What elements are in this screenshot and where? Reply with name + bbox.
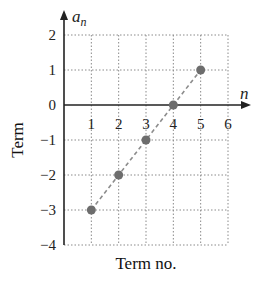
x-tick-label: 4 — [170, 116, 178, 132]
x-tick-label: 3 — [142, 116, 150, 132]
y-axis-arrow — [60, 10, 68, 20]
x-tick-label: 2 — [115, 116, 123, 132]
x-tick-label: 5 — [197, 116, 205, 132]
data-point — [142, 136, 151, 145]
y-tick-label: −4 — [40, 237, 56, 253]
y-tick-label: −1 — [40, 132, 56, 148]
data-point — [196, 66, 205, 75]
x-tick-label: 6 — [224, 116, 232, 132]
x-axis-label: Term no. — [115, 254, 176, 273]
x-axis-name: n — [240, 84, 249, 103]
y-tick-label: −2 — [40, 167, 56, 183]
y-tick-label: 2 — [49, 27, 57, 43]
y-axis-label: Term — [8, 122, 27, 158]
y-tick-label: −3 — [40, 202, 56, 218]
chart: 210−1−2−3−4123456 an n Term no. Term — [0, 0, 263, 289]
y-tick-label: 0 — [49, 97, 57, 113]
x-tick-label: 1 — [88, 116, 96, 132]
y-tick-label: 1 — [49, 62, 57, 78]
data-point — [87, 206, 96, 215]
data-point — [169, 101, 178, 110]
data-point — [114, 171, 123, 180]
y-axis-name: an — [72, 7, 87, 29]
